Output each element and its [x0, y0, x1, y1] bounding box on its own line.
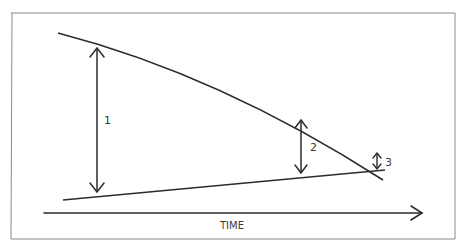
gap-label-3: 3 [385, 156, 392, 169]
gap-label-2: 2 [310, 141, 317, 154]
frame [11, 13, 455, 239]
gap-arrow-3 [373, 153, 381, 169]
upper-curve [58, 33, 383, 180]
lower-line [63, 170, 385, 200]
time-axis-arrow [44, 206, 422, 220]
gap-label-1: 1 [104, 114, 111, 127]
diagram-canvas: 1 2 3 TIME [0, 0, 466, 250]
gap-arrow-1 [90, 48, 104, 192]
time-axis-label: TIME [219, 220, 244, 231]
